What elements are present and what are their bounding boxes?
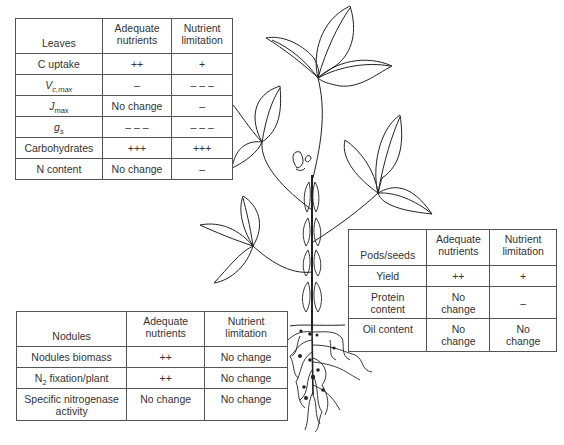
ground-line <box>290 325 345 326</box>
mid-left-leaf-up <box>255 86 281 142</box>
row-limitation: – <box>172 159 233 180</box>
table-row: N content No change – <box>16 159 233 180</box>
leaves-header-limitation: Nutrient limitation <box>172 19 233 54</box>
row-adequate: No change <box>102 96 172 117</box>
right-leaf-lower <box>378 188 432 214</box>
row-adequate: – – – <box>102 117 172 138</box>
top-branch-stem <box>313 78 322 178</box>
row-parameter: Jmax <box>16 96 103 117</box>
pods-seeds-table: Pods/seeds Adequate nutrients Nutrient l… <box>348 229 557 352</box>
row-limitation: No change <box>205 389 288 421</box>
row-adequate: No change <box>427 319 490 352</box>
nodules-header-adequate: Adequate nutrients <box>127 312 205 347</box>
table-row: Nodules biomass ++ No change <box>17 347 288 368</box>
mid-left-leaf-left <box>232 104 262 142</box>
lower-left-leaf-up <box>241 196 260 246</box>
row-parameter: Specific nitrogenase activity <box>17 389 127 421</box>
pods-header-limitation: Nutrient limitation <box>490 230 557 266</box>
nodules-header-label: Nodules <box>17 312 127 347</box>
pods-header-adequate: Adequate nutrients <box>427 230 490 266</box>
row-adequate: ++ <box>127 347 205 368</box>
row-limitation: + <box>490 266 557 287</box>
row-parameter: Yield <box>349 266 427 287</box>
lower-left-leaf-left <box>200 224 253 246</box>
leaves-table-header: Leaves Adequate nutrients Nutrient limit… <box>16 19 233 54</box>
top-leaf-left <box>266 37 319 78</box>
table-row: Carbohydrates +++ +++ <box>16 138 233 159</box>
row-limitation: No change <box>205 347 288 368</box>
table-row: C uptake ++ + <box>16 54 233 75</box>
row-adequate: No change <box>427 287 490 319</box>
table-row: Protein content No change – <box>349 287 557 319</box>
row-limitation: – – – <box>172 117 233 138</box>
row-limitation: – <box>172 96 233 117</box>
row-parameter: Carbohydrates <box>16 138 103 159</box>
lower-left-leaf-down <box>214 246 253 283</box>
table-row: Oil content No change No change <box>349 319 557 352</box>
table-row: Yield ++ + <box>349 266 557 287</box>
nodules-header-limitation: Nutrient limitation <box>205 312 288 347</box>
table-row: Jmax No change – <box>16 96 233 117</box>
leaves-table: Leaves Adequate nutrients Nutrient limit… <box>15 18 233 180</box>
row-parameter: gs <box>16 117 103 138</box>
row-adequate: ++ <box>127 368 205 389</box>
row-adequate: ++ <box>102 54 172 75</box>
row-adequate: +++ <box>102 138 172 159</box>
table-row: Specific nitrogenase activity No change … <box>17 389 288 421</box>
leaves-header-adequate: Adequate nutrients <box>102 19 172 54</box>
row-limitation: + <box>172 54 233 75</box>
pods-table-header: Pods/seeds Adequate nutrients Nutrient l… <box>349 230 557 266</box>
pods-header-label: Pods/seeds <box>349 230 427 266</box>
flower <box>293 152 303 168</box>
row-parameter: Vc,max <box>16 75 103 96</box>
row-parameter: C uptake <box>16 54 103 75</box>
row-adequate: No change <box>127 389 205 421</box>
right-leaf-up <box>376 115 402 193</box>
row-parameter: N2 fixation/plant <box>17 368 127 389</box>
row-limitation: +++ <box>172 138 233 159</box>
leaves-header-label: Leaves <box>16 19 103 54</box>
row-adequate: No change <box>102 159 172 180</box>
row-limitation: No change <box>490 319 557 352</box>
row-limitation: No change <box>205 368 288 389</box>
row-parameter: N content <box>16 159 103 180</box>
nodules-table: Nodules Adequate nutrients Nutrient limi… <box>16 311 288 421</box>
table-row: N2 fixation/plant ++ No change <box>17 368 288 389</box>
row-parameter: Protein content <box>349 287 427 319</box>
row-limitation: – – – <box>172 75 233 96</box>
row-parameter: Nodules biomass <box>17 347 127 368</box>
row-limitation: – <box>490 287 557 319</box>
row-adequate: ++ <box>427 266 490 287</box>
table-row: gs – – – – – – <box>16 117 233 138</box>
table-row: Vc,max – – – – <box>16 75 233 96</box>
nodules-table-header: Nodules Adequate nutrients Nutrient limi… <box>17 312 288 347</box>
row-adequate: – <box>102 75 172 96</box>
right-leaf-left <box>344 140 378 193</box>
row-parameter: Oil content <box>349 319 427 352</box>
